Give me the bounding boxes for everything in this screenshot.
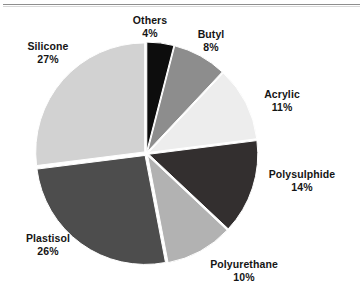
pie-label-acrylic-name: Acrylic (236, 88, 328, 101)
pie-label-others-name: Others (105, 14, 195, 27)
pie-label-plastisol: Plastisol 26% (2, 232, 94, 258)
pie-label-acrylic: Acrylic 11% (236, 88, 328, 114)
pie-label-polyurethane-name: Polyurethane (185, 258, 303, 271)
pie-label-butyl-value: 8% (166, 41, 256, 54)
pie-label-silicone-name: Silicone (2, 40, 94, 53)
pie-label-polysulphide-name: Polysulphide (244, 168, 360, 181)
pie-label-polysulphide-value: 14% (244, 181, 360, 194)
pie-label-polyurethane: Polyurethane 10% (185, 258, 303, 284)
pie-label-acrylic-value: 11% (236, 101, 328, 114)
pie-label-polyurethane-value: 10% (185, 271, 303, 284)
pie-label-plastisol-name: Plastisol (2, 232, 94, 245)
pie-label-butyl: Butyl 8% (166, 28, 256, 54)
pie-label-plastisol-value: 26% (2, 245, 94, 258)
pie-chart-figure: Others 4% Butyl 8% Acrylic 11% Polysulph… (0, 0, 362, 292)
pie-label-silicone-value: 27% (2, 53, 94, 66)
pie-label-polysulphide: Polysulphide 14% (244, 168, 360, 194)
pie-label-butyl-name: Butyl (166, 28, 256, 41)
pie-label-silicone: Silicone 27% (2, 40, 94, 66)
